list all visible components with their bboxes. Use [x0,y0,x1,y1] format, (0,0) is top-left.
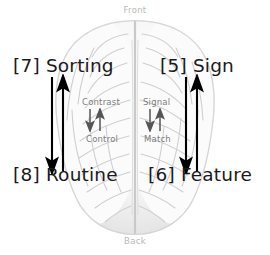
inner-label-signal: Signal [143,97,170,107]
orientation-label-front: Front [0,5,270,15]
brain-illustration [0,0,270,255]
brain-diagram-figure: Front Back [0,0,270,255]
arrow-pair-right-hemisphere [178,74,208,174]
region-label-feature: [6] Feature [148,164,252,185]
inner-label-match: Match [144,134,171,144]
region-label-routine: [8] Routine [13,164,118,185]
region-label-sorting: [7] Sorting [13,55,114,76]
inner-label-control: Control [86,134,118,144]
arrow-pair-contrast-control [84,108,108,132]
inner-label-contrast: Contrast [82,97,120,107]
region-label-sign: [5] Sign [160,55,234,76]
arrow-pair-left-hemisphere [44,74,74,174]
arrow-pair-signal-match [144,108,168,132]
orientation-label-back: Back [0,236,270,246]
